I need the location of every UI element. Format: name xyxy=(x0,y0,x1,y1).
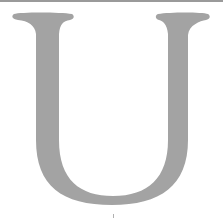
letter-u-shape xyxy=(12,13,209,206)
letter-u-glyph xyxy=(0,0,223,220)
bottom-tick-mark xyxy=(113,214,114,218)
